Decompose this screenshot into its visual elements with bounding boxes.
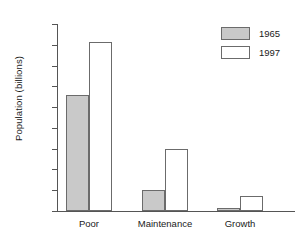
bar-growth-1965	[217, 208, 240, 211]
y-tick	[52, 86, 57, 87]
legend-label-1997: 1997	[259, 47, 280, 58]
bar-maintenance-1997	[165, 149, 188, 211]
legend: 19651997	[221, 26, 280, 64]
y-tick	[52, 149, 57, 150]
y-axis-line	[57, 24, 58, 211]
y-tick	[52, 128, 57, 129]
y-tick	[52, 24, 57, 25]
legend-swatch-1965	[221, 27, 250, 40]
legend-item-1965: 1965	[221, 26, 280, 41]
x-axis-label-growth: Growth	[190, 218, 290, 229]
legend-label-1965: 1965	[259, 28, 280, 39]
y-tick	[52, 169, 57, 170]
y-axis-title: Population (billions)	[13, 29, 24, 169]
legend-swatch-1997	[221, 46, 250, 59]
y-tick	[52, 190, 57, 191]
bar-poor-1965	[66, 95, 89, 211]
y-tick	[52, 66, 57, 67]
bar-chart: Population (billions) 00.51.01.52.02.53.…	[0, 0, 302, 242]
y-tick	[52, 45, 57, 46]
legend-item-1997: 1997	[221, 45, 280, 60]
y-tick	[52, 107, 57, 108]
bar-growth-1997	[240, 196, 263, 211]
x-axis-line	[57, 211, 295, 212]
y-tick	[52, 211, 57, 212]
bar-poor-1997	[89, 42, 112, 211]
bar-maintenance-1965	[142, 190, 165, 211]
